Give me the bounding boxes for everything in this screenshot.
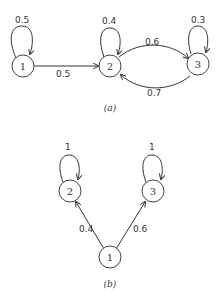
svg-text:2: 2 <box>107 61 113 72</box>
svg-text:2: 2 <box>67 186 73 197</box>
edge-label-b-1-3: 0.6 <box>133 224 148 234</box>
edge-label-a-1-2: 0.5 <box>56 69 70 79</box>
edge-a-2-3 <box>119 45 188 58</box>
edge-b-3-3 <box>143 155 162 182</box>
node-a-3: 3 <box>187 53 209 75</box>
edge-a-2-2 <box>101 28 121 57</box>
node-a-1: 1 <box>12 55 34 77</box>
diagram-b: 1 1 0.4 0.6 2 3 1 (b) <box>59 142 164 289</box>
svg-text:1: 1 <box>107 252 113 263</box>
node-b-1: 1 <box>99 246 121 268</box>
node-b-3: 3 <box>142 180 164 202</box>
diagram-a: 0.5 0.5 0.4 0.6 0.3 0.7 1 2 3 (a) <box>11 15 209 113</box>
edge-label-a-1-1: 0.5 <box>15 15 29 25</box>
node-b-2: 2 <box>59 180 81 202</box>
edge-label-a-3-3: 0.3 <box>191 15 205 25</box>
edge-label-a-2-3: 0.6 <box>145 37 160 47</box>
edge-label-b-2-2: 1 <box>65 142 71 152</box>
edge-label-a-3-2: 0.7 <box>147 88 161 98</box>
edge-label-b-1-2: 0.4 <box>79 224 94 234</box>
edge-label-a-2-2: 0.4 <box>102 16 117 26</box>
edge-b-2-2 <box>60 155 79 182</box>
edge-a-1-1 <box>11 26 32 58</box>
svg-text:1: 1 <box>20 61 26 72</box>
edge-a-3-2 <box>121 75 190 88</box>
markov-chain-diagrams: 0.5 0.5 0.4 0.6 0.3 0.7 1 2 3 (a) <box>0 0 218 295</box>
edge-label-b-3-3: 1 <box>149 142 155 152</box>
svg-text:3: 3 <box>195 59 201 70</box>
edge-a-3-3 <box>189 26 208 54</box>
node-a-2: 2 <box>99 55 121 77</box>
caption-a: (a) <box>104 103 117 113</box>
caption-b: (b) <box>104 279 117 289</box>
svg-text:3: 3 <box>150 186 156 197</box>
